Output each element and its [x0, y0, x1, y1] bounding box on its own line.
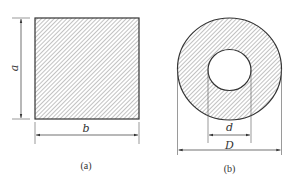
inner-circle — [208, 50, 251, 91]
caption-b: (b) — [224, 163, 236, 175]
label-a: a — [8, 65, 21, 72]
label-d: d — [226, 121, 233, 134]
label-D: D — [224, 139, 234, 152]
cross-sections-diagram: a b (a) d D (b) — [0, 0, 290, 182]
label-b: b — [82, 122, 89, 135]
figure-b: d D (b) — [178, 18, 282, 175]
square-section — [35, 18, 139, 119]
caption-a: (a) — [80, 160, 91, 172]
figure-a: a b (a) — [8, 18, 139, 172]
